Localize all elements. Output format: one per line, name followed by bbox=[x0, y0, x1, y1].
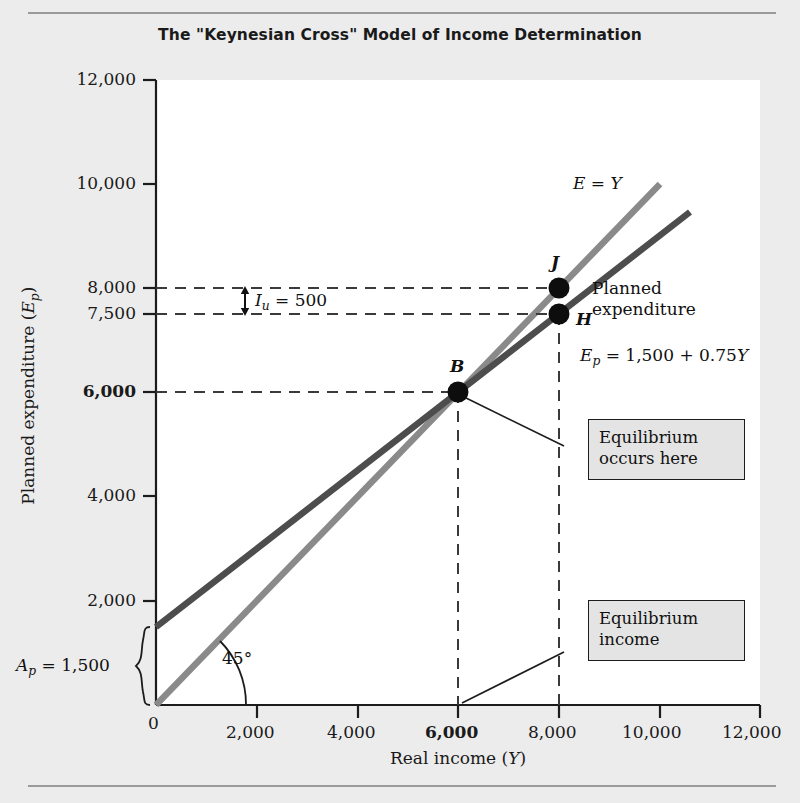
data-point-b[interactable] bbox=[448, 382, 469, 403]
x-tick-label-4000: 4,000 bbox=[327, 722, 376, 742]
figure-container: The "Keynesian Cross" Model of Income De… bbox=[0, 0, 800, 803]
ap-subscript: p bbox=[28, 664, 36, 678]
point-label-h: H bbox=[576, 309, 592, 329]
callout-equilibrium-occurs-here[interactable]: Equilibrium occurs here bbox=[588, 419, 745, 480]
y-tick-label-12000: 12,000 bbox=[36, 69, 136, 89]
series-label-e-equals-y: E = Y bbox=[573, 173, 622, 193]
angle-label-45: 45° bbox=[222, 648, 252, 668]
iu-subscript: u bbox=[262, 299, 270, 313]
planned-expenditure-line1: Planned bbox=[592, 278, 696, 299]
y-axis-title-sub: p bbox=[28, 293, 42, 301]
y-axis-title: Planned expenditure (Ep) bbox=[18, 231, 41, 561]
planned-expenditure-line2: expenditure bbox=[592, 299, 696, 320]
x-axis-title: Real income (Y) bbox=[156, 748, 760, 768]
ap-symbol: A bbox=[16, 655, 28, 675]
x-axis-title-y: Y bbox=[508, 748, 519, 768]
data-point-j[interactable] bbox=[549, 278, 570, 299]
y-tick-label-4000: 4,000 bbox=[36, 485, 136, 505]
y-tick-label-2000: 2,000 bbox=[36, 590, 136, 610]
x-axis-title-close: ) bbox=[519, 748, 526, 768]
x-tick-label-2000: 2,000 bbox=[226, 722, 275, 742]
equation-body: = 1,500 + 0.75 bbox=[600, 345, 737, 365]
point-label-j: J bbox=[551, 252, 559, 272]
callout-equilibrium-line2: occurs here bbox=[599, 448, 735, 469]
callout-income-line1: Equilibrium bbox=[599, 608, 735, 629]
data-point-h[interactable] bbox=[549, 304, 570, 325]
y-axis-title-e: E bbox=[18, 301, 38, 313]
x-tick-label-10000: 10,000 bbox=[622, 722, 681, 742]
y-axis-title-text: Planned expenditure ( bbox=[18, 314, 38, 505]
ap-value: = 1,500 bbox=[36, 655, 110, 675]
x-tick-label-6000: 6,000 bbox=[425, 722, 478, 742]
y-tick-label-8000: 8,000 bbox=[36, 277, 136, 297]
x-tick-label-12000: 12,000 bbox=[722, 722, 781, 742]
callout-equilibrium-income[interactable]: Equilibrium income bbox=[588, 600, 745, 661]
y-axis-ticks bbox=[143, 80, 156, 601]
planned-expenditure-equation: Ep = 1,500 + 0.75Y bbox=[580, 345, 748, 368]
iu-symbol: I bbox=[255, 290, 262, 310]
y-tick-label-10000: 10,000 bbox=[36, 173, 136, 193]
y-tick-label-7500: 7,500 bbox=[36, 303, 136, 323]
brace-autonomous-expenditure bbox=[136, 627, 150, 705]
callout-income-line2: income bbox=[599, 629, 735, 650]
chart-plot-area bbox=[0, 0, 800, 803]
unplanned-inventory-label: Iu = 500 bbox=[255, 290, 327, 313]
x-axis-ticks bbox=[257, 705, 760, 718]
y-axis-title-close: ) bbox=[18, 287, 38, 294]
y-tick-label-6000: 6,000 bbox=[36, 381, 136, 401]
equation-e: E bbox=[580, 345, 592, 365]
y-tick-label-0: 0 bbox=[148, 713, 159, 733]
x-tick-label-8000: 8,000 bbox=[528, 722, 577, 742]
e-equals-y-text: E = Y bbox=[573, 173, 622, 193]
equation-y: Y bbox=[737, 345, 748, 365]
iu-value: = 500 bbox=[270, 290, 328, 310]
x-axis-title-text: Real income ( bbox=[390, 748, 508, 768]
series-label-planned-expenditure: Planned expenditure bbox=[592, 278, 696, 321]
point-label-b: B bbox=[450, 356, 464, 376]
autonomous-expenditure-label: Ap = 1,500 bbox=[16, 655, 110, 678]
callout-equilibrium-line1: Equilibrium bbox=[599, 427, 735, 448]
